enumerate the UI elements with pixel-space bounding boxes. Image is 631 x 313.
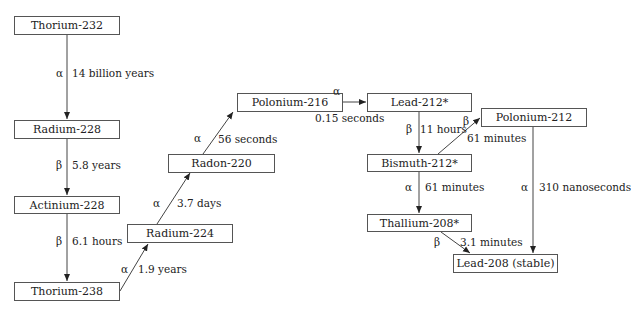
decay-type-label: α <box>194 133 201 144</box>
decay-type-label: α <box>405 182 412 193</box>
decay-type-label: α <box>333 86 340 97</box>
node-radon-220: Radon-220 <box>168 154 275 173</box>
half-life-label: 3.1 minutes <box>460 237 523 248</box>
half-life-label: 6.1 hours <box>72 236 122 247</box>
decay-type-label: β <box>406 124 412 135</box>
decay-type-label: β <box>434 237 440 248</box>
node-lead-208-stable: Lead-208 (stable) <box>453 254 558 273</box>
half-life-label: 5.8 years <box>72 160 121 171</box>
decay-type-label: α <box>521 182 528 193</box>
half-life-label: 14 billion years <box>72 68 154 79</box>
half-life-label: 61 minutes <box>467 133 526 144</box>
node-bismuth-212: Bismuth-212* <box>367 154 472 172</box>
node-radium-224: Radium-224 <box>127 224 233 243</box>
half-life-label: 1.9 years <box>138 264 187 275</box>
half-life-label: 56 seconds <box>218 134 277 145</box>
half-life-label: 3.7 days <box>177 198 221 209</box>
node-thallium-208: Thallium-208* <box>367 214 472 232</box>
node-actinium-228: Actinium-228 <box>14 196 120 214</box>
node-radium-228: Radium-228 <box>14 120 120 139</box>
decay-type-label: β <box>56 236 62 247</box>
decay-type-label: α <box>56 68 63 79</box>
node-thorium-238: Thorium-238 <box>14 282 120 301</box>
decay-type-label: β <box>56 160 62 171</box>
node-polonium-212: Polonium-212 <box>481 108 587 127</box>
half-life-label: 310 nanoseconds <box>539 182 631 193</box>
half-life-label: 61 minutes <box>425 182 484 193</box>
decay-type-label: α <box>121 264 128 275</box>
decay-type-label: α <box>153 198 160 209</box>
node-polonium-216: Polonium-216 <box>237 93 343 112</box>
half-life-label: 0.15 seconds <box>315 113 384 124</box>
half-life-label: 11 hours <box>420 124 467 135</box>
node-lead-212: Lead-212* <box>367 93 472 112</box>
node-thorium-232: Thorium-232 <box>14 16 120 35</box>
